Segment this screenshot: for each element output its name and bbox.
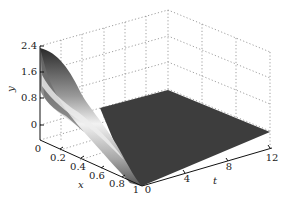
x-tick-label: 0.2 <box>50 152 66 163</box>
y-tick-label: 1.6 <box>21 66 37 77</box>
x-tick-label: 0.8 <box>109 178 125 189</box>
t-tick-label: 8 <box>226 161 232 172</box>
surface-plot: 2.4 1.6 0.8 0 y 0 0.2 0.4 0.6 0.8 1 x 0 … <box>0 0 285 201</box>
x-tick-label: 1 <box>133 184 139 195</box>
y-axis: 2.4 1.6 0.8 0 y <box>5 40 44 140</box>
y-tick-label: 2.4 <box>21 40 37 51</box>
y-tick-label: 0 <box>31 119 37 130</box>
t-tick-label: 12 <box>266 152 279 163</box>
x-tick-label: 0.4 <box>70 161 86 172</box>
x-tick-label: 0.6 <box>89 170 105 181</box>
t-tick-label: 4 <box>184 173 190 184</box>
t-axis-label: t <box>213 175 218 186</box>
y-axis-label: y <box>5 86 16 93</box>
x-axis-label: x <box>78 179 84 190</box>
t-tick-label: 0 <box>145 184 151 195</box>
x-tick-label: 0 <box>35 143 41 154</box>
y-tick-label: 0.8 <box>21 92 37 103</box>
